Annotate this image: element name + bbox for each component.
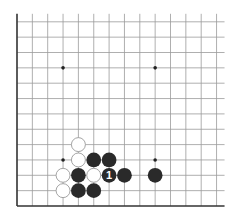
black-stone [148, 168, 163, 183]
black-stone [71, 168, 86, 183]
go-board: 1 [0, 0, 242, 220]
black-stone [71, 183, 86, 198]
white-stone [71, 138, 85, 152]
white-stone [87, 168, 101, 182]
black-stone: 1 [102, 168, 117, 183]
black-stone [86, 183, 101, 198]
white-stone [56, 168, 70, 182]
star-point [153, 158, 157, 162]
star-point [61, 66, 65, 70]
star-point [153, 66, 157, 70]
white-stone [56, 184, 70, 198]
star-point [61, 158, 65, 162]
black-stone [117, 168, 132, 183]
black-stone [102, 153, 117, 168]
white-stone [71, 153, 85, 167]
black-stone [86, 153, 101, 168]
move-number-label: 1 [106, 169, 112, 181]
